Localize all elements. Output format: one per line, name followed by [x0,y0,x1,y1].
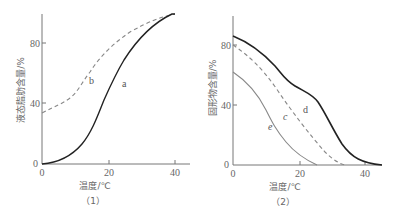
y-tick-label: 0 [224,159,229,170]
y-tick-label: 40 [221,100,231,111]
x-tick-label: 20 [104,167,114,178]
x-tick-label: 0 [40,167,45,178]
curve-c [233,45,345,165]
chart-panel-1: 80 40 0 0 20 40 b a 温度/℃ （1） 液态脂肪含量/% [15,14,190,206]
panel-label-1: （1） [81,196,105,206]
x-axis-label-2: 温度/℃ [269,181,300,192]
x-tick-label: 0 [231,168,236,179]
y-tick-label: 80 [30,38,40,49]
x-tick-label: 20 [295,168,305,179]
y-tick-label: 0 [33,158,38,169]
y-tick-label: 40 [30,98,40,109]
x-tick-label: 40 [170,167,180,178]
x-tick-label: 40 [360,168,370,179]
chart-canvas: 80 40 0 0 20 40 b a 温度/℃ （1） 液态脂肪含量/% 80… [0,0,396,221]
curve-label-b: b [89,75,94,86]
curve-label-d: d [303,104,308,115]
y-tick-label: 80 [221,40,231,51]
curve-a [42,14,175,164]
curve-label-e: e [268,121,273,132]
y-axis-label-2: 固形物含量/% [207,59,218,116]
y-axis-label-1: 液态脂肪含量/% [15,57,26,123]
chart-panel-2: 80 40 0 0 20 40 d c e 温度/℃ （2） 固形物含量/% [207,16,382,207]
x-axis-label-1: 温度/℃ [79,180,110,191]
curve-label-a: a [122,78,127,89]
curve-b [42,14,175,113]
panel-label-2: （2） [271,197,295,207]
curve-d [233,36,382,165]
curve-label-c: c [283,111,288,122]
